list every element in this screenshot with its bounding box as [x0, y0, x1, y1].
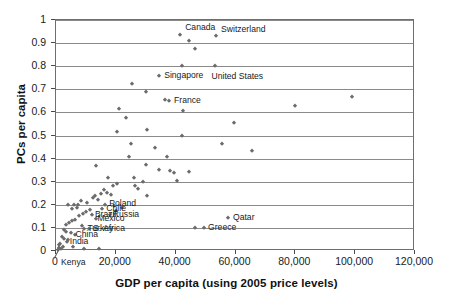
data-point	[97, 246, 102, 251]
data-point-label: Greece	[208, 223, 236, 232]
data-point-label: Singapore	[164, 71, 203, 80]
x-tick-label: 120,000	[395, 256, 433, 267]
data-point	[293, 104, 298, 109]
x-tick-mark	[175, 250, 176, 254]
y-tick-label: 0.4	[31, 153, 46, 164]
data-point	[220, 142, 225, 147]
x-tick-mark	[115, 250, 116, 254]
data-point	[145, 128, 150, 133]
gridline	[56, 66, 413, 67]
data-point	[172, 171, 177, 176]
data-point	[214, 34, 219, 39]
data-point-label: France	[174, 96, 201, 105]
data-point	[128, 141, 133, 146]
data-point-label: India	[70, 237, 89, 246]
scatter-chart: PCs per capita GDP per capita (using 200…	[0, 0, 453, 304]
data-point	[124, 115, 129, 120]
y-tick-label: 0	[40, 245, 46, 256]
x-tick-label: 20,000	[99, 256, 131, 267]
x-tick-label: 40,000	[159, 256, 191, 267]
data-point	[212, 63, 217, 68]
data-point	[226, 216, 231, 221]
data-point	[157, 167, 162, 172]
x-tick-mark	[354, 250, 355, 254]
gridline	[56, 159, 413, 160]
data-point	[143, 163, 148, 168]
data-point	[89, 212, 94, 217]
y-tick-label: 0.1	[31, 222, 46, 233]
y-tick-label: 0.2	[31, 199, 46, 210]
data-point	[94, 164, 99, 169]
data-point-label: United States	[212, 72, 264, 81]
y-axis-title: PCs per capita	[15, 59, 27, 189]
data-point	[82, 246, 87, 251]
y-tick-label: 0.6	[31, 106, 46, 117]
data-point	[193, 46, 198, 51]
data-point	[179, 64, 184, 69]
x-tick-mark	[235, 250, 236, 254]
y-tick-label: 0.9	[31, 37, 46, 48]
y-tick-label: 0.7	[31, 83, 46, 94]
data-point	[66, 202, 71, 207]
data-point-label: Kenya	[61, 258, 85, 267]
data-point	[95, 197, 100, 202]
x-tick-mark	[294, 250, 295, 254]
x-tick-label: 100,000	[335, 256, 373, 267]
data-point	[179, 134, 184, 139]
data-point	[145, 194, 150, 199]
data-point	[232, 121, 237, 126]
data-point	[109, 193, 114, 198]
data-point	[77, 214, 82, 219]
data-point	[202, 226, 207, 231]
data-point	[116, 107, 121, 112]
gridline	[56, 43, 413, 44]
gridline	[56, 182, 413, 183]
data-point-label: Canada	[185, 23, 215, 32]
data-point	[152, 145, 157, 150]
gridline	[56, 112, 413, 113]
y-tick-label: 0.8	[31, 60, 46, 71]
data-point	[167, 99, 172, 104]
x-tick-mark	[414, 250, 415, 254]
data-point	[106, 175, 111, 180]
data-point	[136, 187, 141, 192]
data-point	[250, 149, 255, 154]
data-point	[143, 90, 148, 95]
gridline	[56, 20, 413, 21]
y-tick-label: 0.3	[31, 176, 46, 187]
gridline	[56, 136, 413, 137]
y-tick-label: 1	[40, 14, 46, 25]
data-point	[178, 33, 183, 38]
data-point	[64, 240, 69, 245]
data-point	[350, 95, 355, 100]
data-point	[130, 82, 135, 87]
gridline	[56, 89, 413, 90]
data-point	[157, 74, 162, 79]
data-point	[98, 191, 103, 196]
data-point-label: Switzerland	[221, 25, 265, 34]
data-point	[79, 199, 84, 204]
data-point	[140, 180, 145, 185]
x-tick-label: 80,000	[278, 256, 310, 267]
data-point	[175, 179, 180, 184]
data-point	[187, 169, 192, 174]
data-point	[193, 225, 198, 230]
y-tick-label: 0.5	[31, 130, 46, 141]
data-point-label: Qatar	[233, 213, 255, 222]
data-point	[115, 130, 120, 135]
x-tick-label: 60,000	[218, 256, 250, 267]
x-axis-title: GDP per capita (using 2005 price levels)	[0, 277, 453, 289]
data-point	[131, 175, 136, 180]
data-point-label: Mexico	[97, 214, 124, 223]
